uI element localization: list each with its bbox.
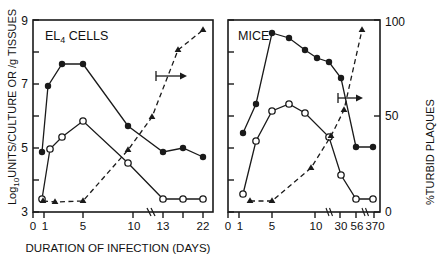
right-panel-left-y-ticks <box>228 20 234 212</box>
right-y-axis-label-group: %TURBID PLAQUES <box>424 99 436 205</box>
left-right-axis-arrow-icon <box>156 71 187 81</box>
left-ytick-7: 7 <box>21 77 28 91</box>
left-y-axis-label-group: Log10UNITS/CULTURE OR /g TISSUES <box>6 9 21 205</box>
left-xtick-22: 22 <box>197 220 210 232</box>
right-xtick-10: 10 <box>310 220 323 232</box>
right-ytick-50: 50 <box>385 109 399 123</box>
right-xtick-370: 370 <box>365 220 384 232</box>
left-ytick-9: 9 <box>21 14 28 28</box>
left-filled-circle-line <box>42 64 203 157</box>
left-xtick-13: 13 <box>157 220 170 232</box>
left-y-axis-label: Log10UNITS/CULTURE OR /g TISSUES <box>6 9 21 205</box>
right-xtick-1: 1 <box>237 220 243 232</box>
right-xtick-30: 30 <box>335 220 348 232</box>
left-xtick-1: 1 <box>42 220 48 232</box>
right-panel: 0 50 100 0 1 5 10 30 56 370 MICE <box>225 15 406 232</box>
right-y-ticks <box>374 20 380 212</box>
left-x-ticks <box>33 212 203 218</box>
right-y-axis-label: %TURBID PLAQUES <box>424 99 436 205</box>
right-ytick-0: 0 <box>385 205 392 219</box>
right-xtick-0: 0 <box>225 220 231 232</box>
left-plot-frame <box>33 20 213 212</box>
figure-container: 3 5 7 9 0 1 5 10 13 22 EL4 CELLS <box>0 0 440 264</box>
right-open-circle-line <box>243 104 373 199</box>
left-ytick-5: 5 <box>21 141 28 155</box>
right-right-axis-arrow-icon <box>338 93 363 103</box>
left-panel-title: EL4 CELLS <box>45 29 108 45</box>
left-y-ticks <box>33 20 39 212</box>
right-xtick-56: 56 <box>351 220 364 232</box>
left-xtick-5: 5 <box>80 220 86 232</box>
left-filled-triangle-line <box>43 30 203 202</box>
left-xtick-10: 10 <box>128 220 141 232</box>
right-x-ticks <box>228 212 374 218</box>
left-ytick-3: 3 <box>21 205 28 219</box>
left-xtick-0: 0 <box>30 220 36 232</box>
left-open-circle-markers <box>39 118 206 202</box>
left-open-circle-line <box>42 121 203 199</box>
right-panel-title: MICE <box>238 29 269 43</box>
left-panel: 3 5 7 9 0 1 5 10 13 22 EL4 CELLS <box>21 14 213 232</box>
right-xtick-5: 5 <box>269 220 275 232</box>
x-axis-label: DURATION OF INFECTION (DAYS) <box>26 242 211 254</box>
left-filled-triangle-markers <box>40 26 207 204</box>
figure-svg: 3 5 7 9 0 1 5 10 13 22 EL4 CELLS <box>0 0 440 264</box>
right-ytick-100: 100 <box>385 15 405 29</box>
